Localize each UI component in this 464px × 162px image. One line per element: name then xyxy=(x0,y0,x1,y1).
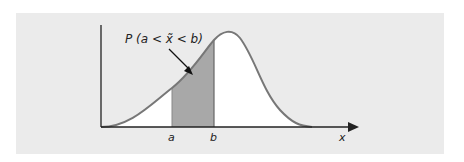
b-tick-label: b xyxy=(210,131,217,144)
density-diagram: P (a < x̃ < b) a b x xyxy=(0,0,464,162)
annotation-arrow xyxy=(169,49,190,70)
x-axis-arrow-icon xyxy=(348,122,359,132)
a-tick-label: a xyxy=(168,131,175,144)
x-axis-label: x xyxy=(338,131,346,144)
annotation-label: P (a < x̃ < b) xyxy=(125,32,203,46)
